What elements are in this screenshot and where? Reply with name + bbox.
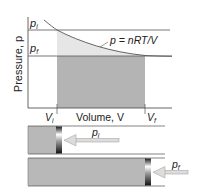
- initial-volume-label: Vi: [45, 111, 54, 124]
- piston: [145, 159, 151, 186]
- gas-region: [28, 127, 57, 154]
- gas-region: [28, 159, 146, 186]
- piston: [56, 127, 62, 154]
- cylinder-final: pf: [28, 158, 188, 186]
- piston-final-pressure-label: pf: [171, 158, 181, 171]
- pv-graph: Pressure, p Volume, V pi pf Vi Vf p = nR…: [12, 17, 172, 124]
- final-volume-label: Vf: [147, 111, 157, 124]
- cylinder-initial: pi: [28, 126, 165, 154]
- expansion-work-diagram: Pressure, p Volume, V pi pf Vi Vf p = nR…: [0, 0, 199, 196]
- y-axis-label: Pressure, p: [12, 36, 24, 92]
- x-axis-label: Volume, V: [76, 111, 124, 123]
- final-pressure-label: pf: [29, 42, 39, 55]
- work-shaded-area: [57, 56, 145, 108]
- isotherm-equation-label: p = nRT/V: [109, 34, 158, 46]
- initial-pressure-label: pi: [29, 17, 38, 30]
- piston-initial-pressure-label: pi: [91, 126, 100, 139]
- external-pressure-arrow: [153, 167, 188, 179]
- curve-label-leader: [100, 42, 108, 47]
